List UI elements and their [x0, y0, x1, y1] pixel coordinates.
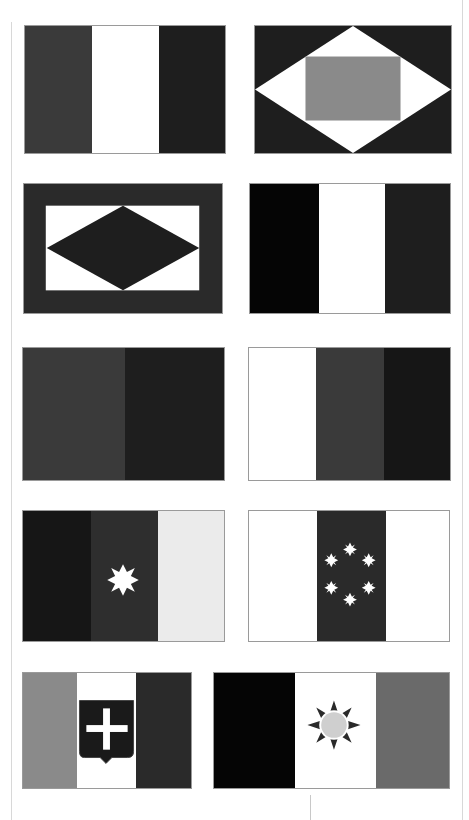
flag-10-tricolor-sun — [213, 672, 450, 789]
diamond-emblem — [255, 26, 451, 153]
stripe-left — [23, 348, 125, 480]
flag-3-bordered-diamond — [23, 183, 223, 314]
stripe-right — [384, 348, 450, 480]
flag-7-tricolor-star — [22, 510, 225, 642]
flag-9-tricolor-shield — [22, 672, 192, 789]
star-ring-icon — [249, 511, 449, 641]
page-border-right — [462, 0, 463, 820]
stripe-left — [250, 184, 319, 313]
flag-8-tricolor-stars — [248, 510, 450, 642]
page-gutter-mark — [310, 795, 311, 820]
shield-cross-icon — [23, 673, 191, 788]
stripe-left — [249, 348, 316, 480]
sun-icon — [214, 673, 449, 788]
stripe-center — [316, 348, 384, 480]
flag-5-bicolor — [22, 347, 225, 481]
eight-point-star-icon — [23, 511, 224, 641]
flag-4-tricolor — [249, 183, 451, 314]
stripe-right — [125, 348, 224, 480]
stripe-center — [92, 26, 159, 153]
stripe-center — [319, 184, 385, 313]
flag-2-diamond-rectangle — [254, 25, 452, 154]
diamond-emblem — [24, 184, 222, 313]
stripe-right — [159, 26, 225, 153]
flag-1-tricolor — [24, 25, 226, 154]
stripe-left — [25, 26, 92, 153]
flag-6-tricolor — [248, 347, 451, 481]
stripe-right — [385, 184, 450, 313]
page-border-left — [11, 22, 12, 820]
